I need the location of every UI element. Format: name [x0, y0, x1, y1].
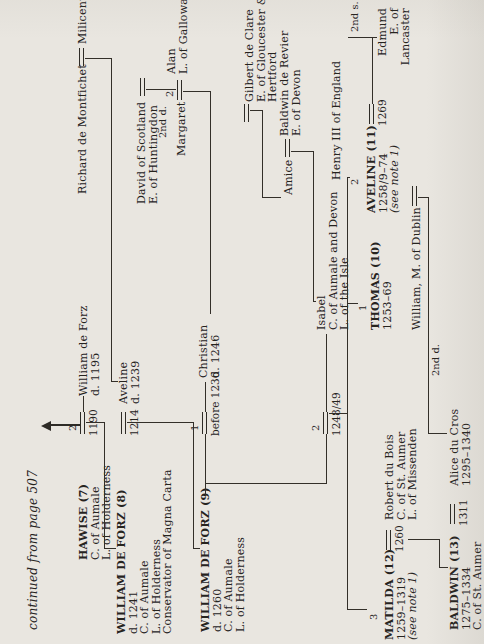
person-node-william-de-forz-d1195: William de Forzd. 1195	[78, 306, 101, 396]
child-number-label: 2	[350, 179, 361, 185]
connector-line	[183, 91, 210, 92]
person-text-line: d. 1246	[210, 325, 222, 378]
person-node-william-m-of-dublin: William, M. of Dublin	[411, 207, 423, 330]
person-text-line: L. of Holderness	[235, 487, 247, 632]
person-text-line: WILLIAM DE FORZ (9)	[200, 487, 212, 632]
person-text-line: BALDWIN (13)	[449, 535, 461, 630]
person-text-line: E. of Devon	[291, 31, 303, 136]
person-text-line: 1253–69	[382, 241, 394, 330]
connector-line	[193, 548, 200, 549]
person-node-baldwin-de-revier: Baldwin de RevierE. of Devon	[279, 31, 302, 136]
connector-line	[347, 177, 348, 610]
marriage-number: 2	[68, 425, 78, 431]
person-node-alice-du-cros: Alice du Cros1295–1340	[449, 409, 472, 486]
person-text-line: C. of St. Aumer	[472, 535, 484, 630]
person-text-line: C. of Aumale	[223, 487, 235, 632]
child-number-label: 3	[369, 614, 380, 620]
person-text-line: d. 1195	[90, 306, 102, 396]
person-text-line: Christian	[198, 325, 210, 378]
connector-line	[372, 38, 373, 104]
person-text-line: Aveline	[118, 361, 130, 404]
person-text-line: Gilbert de Clare	[244, 0, 256, 102]
connector-line	[262, 110, 263, 198]
person-node-matilda-12: MATILDA (12)1259–1319(see note 1)	[384, 549, 419, 640]
marriage-date: 1248/49	[331, 392, 342, 436]
connector-line	[205, 382, 206, 412]
marriage-bar-matilda-robert: 1260	[386, 530, 391, 550]
connector-line	[210, 91, 211, 314]
marriage-bar-david-unnamed	[140, 78, 145, 96]
person-text-line: Amice	[283, 159, 295, 195]
person-text-line: L. of Galloway	[178, 0, 190, 74]
person-text-line: Richard de Montfichet	[77, 64, 89, 194]
marriage-number: 2	[311, 425, 321, 431]
connector-line	[146, 89, 176, 90]
child-number-label: 1	[358, 305, 369, 311]
person-node-amice: Amice	[283, 159, 295, 195]
marriage-date: 1311	[458, 499, 469, 526]
person-text-line: (see note 1)	[389, 125, 401, 213]
connector-line	[127, 422, 193, 423]
person-text-line: William de Forz	[78, 306, 90, 396]
person-text-line: Conservator of Magna Carta	[162, 469, 174, 634]
connector-line	[262, 197, 281, 198]
person-node-christian: Christiand. 1246	[198, 325, 221, 378]
marriage-bar-margaret-alan: 2	[177, 80, 182, 100]
connector-line	[326, 434, 327, 484]
relation-label: 2nd s.	[350, 1, 361, 32]
scanned-book-page: continued from page 507 HAWISE (7)C. of …	[0, 0, 484, 644]
connector-line	[439, 567, 448, 568]
marriage-bar-gilbert-unnamed	[244, 104, 249, 122]
marriage-date: 1269	[377, 99, 388, 126]
person-node-aveline-d1239: Avelined. 1239	[118, 361, 141, 404]
person-node-edmund-of-lancaster: EdmundE. ofLancaster	[377, 8, 412, 65]
person-text-line: L. of Missenden	[407, 428, 419, 520]
connector-line	[86, 422, 104, 423]
marriage-number: 1	[190, 425, 200, 431]
marriage-bar-william9-isabel: 21248/49	[323, 412, 328, 434]
person-text-line: Baldwin de Revier	[279, 31, 291, 136]
connector-line	[408, 539, 439, 540]
person-text-line: L. of the Isle	[339, 191, 351, 330]
connector-line	[104, 548, 116, 549]
marriage-bar-aveline11-edmund: 1269	[369, 104, 374, 124]
person-text-line: Edmund	[377, 8, 389, 65]
connector-line	[439, 539, 440, 568]
person-node-robert-du-bois: Robert du BoisC. of St. AumerL. of Misse…	[384, 428, 419, 520]
connector-line	[313, 301, 316, 302]
marriage-bar-william8-aveline: 1214	[121, 412, 126, 434]
connector-line	[313, 151, 314, 302]
person-node-thomas-10: THOMAS (10)1253–69	[370, 241, 393, 330]
marriage-bar-hawise-william: 21190	[80, 412, 85, 434]
connector-line	[205, 434, 206, 496]
person-text-line: (see note 1)	[407, 549, 419, 640]
connector-line	[329, 413, 347, 414]
continued-note: continued from page 507	[26, 470, 40, 630]
person-text-line: L. of Holderness	[101, 465, 113, 560]
continuation-arrow-icon	[41, 421, 51, 431]
person-text-line: William, M. of Dublin	[411, 207, 423, 330]
person-node-aveline-11: AVELINE (11)1258/9–74(see note 1)	[366, 125, 401, 213]
connector-line	[428, 433, 447, 434]
person-text-line: Hertford	[267, 0, 279, 102]
person-text-line: HAWISE (7)	[78, 465, 90, 560]
person-node-henry-iii: Henry III of England	[331, 61, 343, 180]
person-node-william-de-forz-8: WILLIAM DE FORZ (8)d. 1241C. of AumaleL.…	[116, 469, 174, 634]
connector-line	[428, 197, 429, 434]
marriage-date: before 1236	[210, 372, 221, 436]
person-node-baldwin-13: BALDWIN (13)1275–1334C. of St. Aumer	[449, 535, 484, 630]
person-node-alan-of-galloway: AlanL. of Galloway	[166, 0, 189, 74]
person-text-line: MATILDA (12)	[384, 549, 396, 640]
marriage-bar-richard-milicent	[79, 48, 84, 66]
connector-line	[291, 151, 313, 152]
person-node-hawise-7: HAWISE (7)C. of AumaleL. of Holderness	[78, 465, 113, 560]
person-text-line: THOMAS (10)	[370, 241, 382, 330]
person-text-line: Isabel	[316, 191, 328, 330]
relation-label: 2nd d.	[431, 344, 442, 376]
person-text-line: C. of Aumale	[139, 469, 151, 634]
person-text-line: Henry III of England	[331, 61, 343, 180]
connector-line	[111, 58, 112, 382]
connector-line	[250, 110, 262, 111]
person-node-david-of-scotland: David of ScotlandE. of Huntingdon	[136, 102, 159, 204]
person-text-line: 1295–1340	[461, 409, 473, 486]
